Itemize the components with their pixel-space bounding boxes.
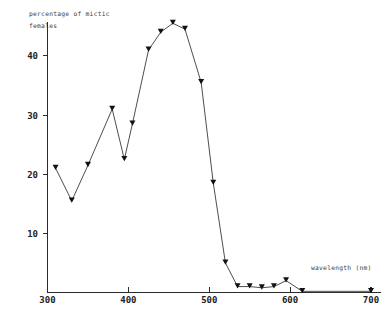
- x-tick-label: 300: [39, 295, 55, 305]
- x-tick-label: 400: [120, 295, 136, 305]
- x-tick-label: 600: [282, 295, 298, 305]
- x-tick-label: 500: [201, 295, 217, 305]
- y-tick-label: 40: [27, 51, 38, 61]
- y-axis-label-line2: females: [29, 22, 57, 29]
- y-tick-label: 20: [27, 170, 38, 180]
- x-tick-label: 700: [363, 295, 379, 305]
- y-tick-label: 10: [27, 229, 38, 239]
- y-tick-label: 30: [27, 111, 38, 121]
- y-axis-label-line1: percentage of mictic: [29, 10, 110, 18]
- x-axis-label: wavelength (nm): [311, 264, 372, 272]
- action-spectrum-chart: 10 20 30 40 300 400 500 600 700 percenta…: [0, 0, 392, 316]
